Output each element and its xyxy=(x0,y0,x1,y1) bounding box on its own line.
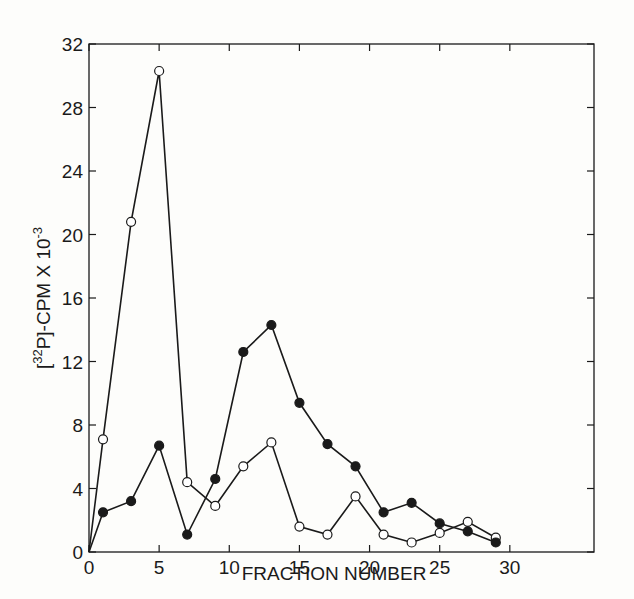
filled-circle-marker xyxy=(155,441,164,450)
open-circle-marker xyxy=(155,66,164,75)
open-circle-marker xyxy=(211,501,220,510)
y-tick-label: 32 xyxy=(62,34,83,55)
open-circle-marker xyxy=(407,538,416,547)
y-title-main: P]-CPM X 10 xyxy=(33,238,54,349)
filled-circle-marker xyxy=(323,440,332,449)
filled-circle-marker xyxy=(379,508,388,517)
open-circle-marker xyxy=(239,462,248,471)
chart: 048121620242832 051015202530 FRACTION NU… xyxy=(0,0,634,599)
x-tick-label: 30 xyxy=(499,557,520,578)
x-axis-title: FRACTION NUMBER xyxy=(242,563,427,584)
filled-circle-marker xyxy=(295,398,304,407)
y-tick-label: 8 xyxy=(72,415,83,436)
y-tick-label: 20 xyxy=(62,225,83,246)
filled-circle-marker xyxy=(127,497,136,506)
x-tick-label: 5 xyxy=(154,557,165,578)
open-circle-marker xyxy=(99,435,108,444)
y-tick-label: 24 xyxy=(62,161,84,182)
open-circle-marker xyxy=(127,217,136,226)
x-tick-label: 10 xyxy=(219,557,240,578)
open-circle-marker xyxy=(183,478,192,487)
filled-circle-marker xyxy=(491,538,500,547)
open-circle-marker xyxy=(295,522,304,531)
series-line xyxy=(89,71,496,552)
y-title-isotope: 32 xyxy=(30,349,45,363)
filled-circle-marker xyxy=(99,508,108,517)
y-tick-label: 0 xyxy=(72,542,83,563)
open-circle-marker xyxy=(351,492,360,501)
open-circle-marker xyxy=(379,530,388,539)
open-circle-marker xyxy=(267,438,276,447)
filled-circle-marker xyxy=(211,474,220,483)
y-tick-label: 4 xyxy=(72,479,83,500)
x-tick-label: 0 xyxy=(84,557,95,578)
filled-circle-marker xyxy=(239,347,248,356)
x-tick-label: 25 xyxy=(429,557,450,578)
y-tick-label: 16 xyxy=(62,288,83,309)
open-circle-marker xyxy=(463,517,472,526)
open-circle-marker xyxy=(323,530,332,539)
series-line xyxy=(89,325,496,552)
y-tick-label: 28 xyxy=(62,98,83,119)
y-axis-title: [32P]-CPM X 10-3 xyxy=(30,227,54,369)
y-tick-label: 12 xyxy=(62,352,83,373)
plot-frame xyxy=(89,44,594,552)
open-circle-marker xyxy=(435,528,444,537)
filled-circle-marker xyxy=(183,530,192,539)
data-series xyxy=(89,66,500,552)
y-title-exponent: -3 xyxy=(30,227,45,239)
filled-circle-marker xyxy=(435,519,444,528)
filled-circle-marker xyxy=(351,462,360,471)
filled-circle-marker xyxy=(463,527,472,536)
filled-circle-marker xyxy=(407,498,416,507)
filled-circle-marker xyxy=(267,320,276,329)
y-axis-ticks: 048121620242832 xyxy=(62,34,594,563)
